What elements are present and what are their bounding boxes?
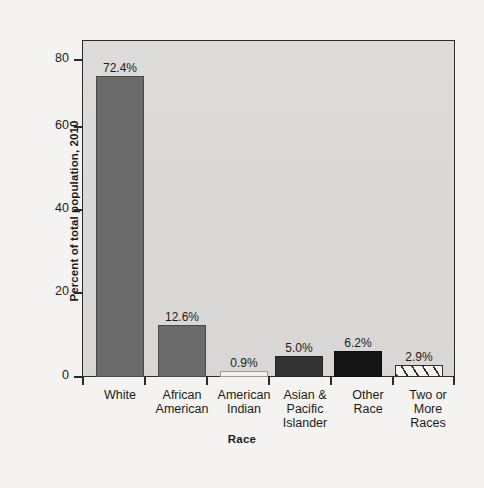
y-tick-mark (74, 126, 82, 128)
y-tick-mark (74, 59, 82, 61)
bar-value-african-american: 12.6% (148, 310, 216, 324)
x-label-american-indian: American Indian (210, 388, 278, 416)
x-label-african-american: African American (148, 388, 216, 416)
bar-american-indian[interactable] (220, 371, 268, 377)
x-tick-mark (330, 377, 332, 385)
y-axis-title: Percent of total population, 2010 (68, 61, 80, 361)
bar-white[interactable] (96, 76, 144, 377)
x-label-asian-pacific-islander: Asian & Pacific Islander (270, 388, 340, 430)
y-tick-label: 40 (55, 201, 69, 215)
y-tick-mark (74, 209, 82, 211)
bar-two-or-more-races[interactable] (395, 365, 443, 377)
y-tick-label: 20 (55, 284, 69, 298)
x-tick-mark (206, 377, 208, 385)
bar-value-american-indian: 0.9% (210, 356, 278, 370)
x-tick-mark (82, 377, 84, 385)
x-tick-mark (392, 377, 394, 385)
x-tick-mark (144, 377, 146, 385)
x-label-white: White (86, 388, 154, 402)
x-axis-title: Race (0, 433, 484, 445)
bar-african-american[interactable] (158, 325, 206, 377)
x-tick-mark (453, 377, 455, 385)
bar-other-race[interactable] (334, 351, 382, 377)
bar-value-other-race: 6.2% (324, 336, 392, 350)
x-label-other-race: Other Race (334, 388, 402, 416)
bar-value-asian-pacific-islander: 5.0% (265, 341, 333, 355)
y-tick-label: 80 (55, 51, 69, 65)
y-tick-label: 60 (55, 118, 69, 132)
y-tick-mark (74, 376, 82, 378)
bar-value-two-or-more-races: 2.9% (385, 350, 453, 364)
bar-value-white: 72.4% (86, 61, 154, 75)
x-label-two-or-more-races: Two or More Races (394, 388, 462, 430)
y-tick-mark (74, 292, 82, 294)
bar-chart-figure: Percent of total population, 2010 0 20 4… (0, 0, 484, 488)
x-tick-mark (268, 377, 270, 385)
bar-asian-pacific-islander[interactable] (275, 356, 323, 377)
y-tick-label: 0 (62, 368, 69, 382)
